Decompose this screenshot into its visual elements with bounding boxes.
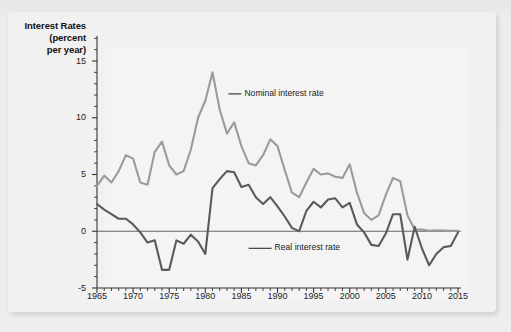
- x-tick-label: 1970: [113, 291, 153, 301]
- x-tick-label: 1995: [294, 291, 334, 301]
- x-tick-label: 2010: [402, 291, 442, 301]
- x-tick-label: 2005: [366, 291, 406, 301]
- x-tick-label: 2015: [438, 291, 478, 301]
- x-tick-label: 1980: [185, 291, 225, 301]
- x-tick-label: 1990: [258, 291, 298, 301]
- y-axis-ticks: [92, 38, 97, 288]
- x-tick-label: 1975: [149, 291, 189, 301]
- x-tick-label: 1985: [221, 291, 261, 301]
- y-tick-label: 0: [60, 226, 86, 236]
- x-tick-label: 1965: [77, 291, 117, 301]
- y-tick-label: 15: [60, 56, 86, 66]
- y-tick-label: 10: [60, 112, 86, 122]
- series-line-real-interest-rate: [97, 171, 458, 270]
- figure-canvas: Interest Rates(percentper year) 151050-5…: [0, 0, 511, 332]
- series-label-real-interest-rate: Real interest rate: [275, 242, 340, 252]
- y-tick-label: 5: [60, 169, 86, 179]
- x-tick-label: 2000: [330, 291, 370, 301]
- series-label-nominal-interest-rate: Nominal interest rate: [244, 88, 323, 98]
